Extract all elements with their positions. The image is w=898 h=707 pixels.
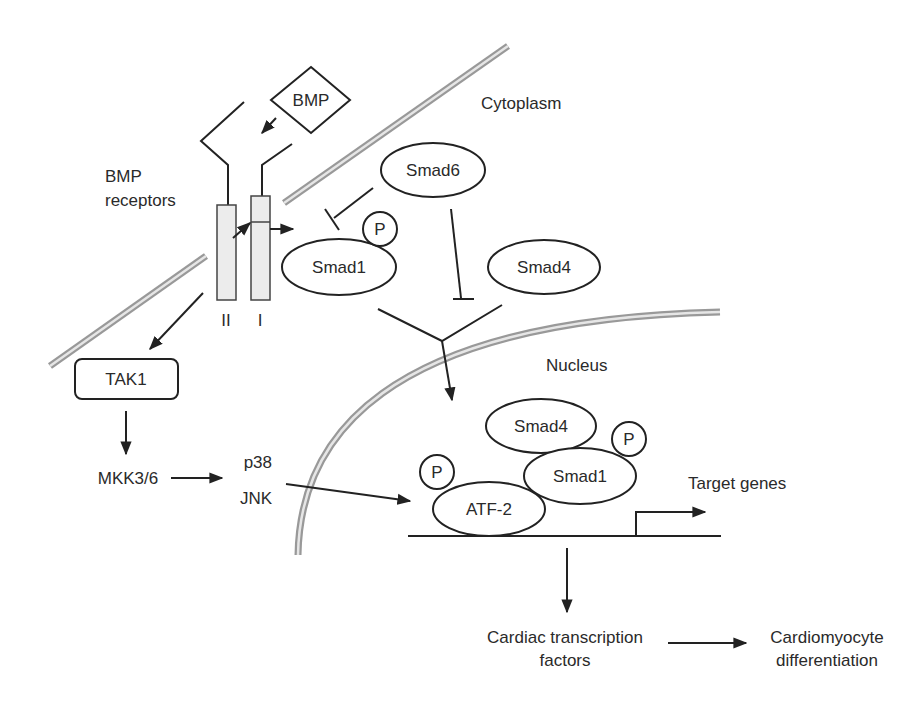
receptor-I-ectodomain <box>262 144 292 196</box>
svg-text:P: P <box>623 430 634 449</box>
mkk-node: MKK3/6 <box>98 469 158 488</box>
pathway-diagram: Cytoplasm Nucleus BMP BMP receptors II I… <box>0 0 898 707</box>
svg-text:Smad1: Smad1 <box>312 258 366 277</box>
nucleus-label: Nucleus <box>546 356 607 375</box>
receptor-type-I <box>251 196 270 300</box>
svg-text:Smad1: Smad1 <box>553 467 607 486</box>
cardiac-tf-line2: factors <box>539 651 590 670</box>
svg-text:ATF-2: ATF-2 <box>466 500 512 519</box>
receptor-to-tak1-arrow <box>150 293 203 349</box>
smad1-nuclear-node: Smad1 <box>524 448 636 504</box>
receptor-I-label: I <box>258 311 263 330</box>
svg-text:P: P <box>431 463 442 482</box>
bmp-ligand: BMP <box>271 67 350 133</box>
receptor-type-II <box>217 205 236 300</box>
bmp-label: BMP <box>293 91 330 110</box>
transcription-start-arrow <box>636 512 705 536</box>
jnk-node: JNK <box>240 489 273 508</box>
receptor-label-line1: BMP <box>105 167 142 186</box>
svg-text:Smad6: Smad6 <box>406 161 460 180</box>
smad-complex-convergence <box>378 305 502 341</box>
phospho-atf2: P <box>420 455 454 489</box>
smad4-cytoplasmic-node: Smad4 <box>488 240 600 294</box>
target-genes-label: Target genes <box>688 474 786 493</box>
smad4-nuclear-node: Smad4 <box>486 399 596 453</box>
receptor-II-ectodomain <box>201 102 244 205</box>
svg-text:P: P <box>374 220 385 239</box>
bmp-binding-arrow <box>262 118 276 133</box>
cytoplasm-label: Cytoplasm <box>481 94 561 113</box>
phospho-smad1-nuclear: P <box>612 422 646 456</box>
cardiomyocyte-line1: Cardiomyocyte <box>770 628 883 647</box>
svg-text:Smad4: Smad4 <box>514 417 568 436</box>
smad-nuclear-import-arrow <box>442 341 452 400</box>
cardiomyocyte-line2: differentiation <box>776 651 878 670</box>
smad6-node: Smad6 <box>381 143 485 197</box>
cardiac-tf-line1: Cardiac transcription <box>487 628 643 647</box>
phospho-smad1-cytoplasmic: P <box>363 212 397 246</box>
p38-node: p38 <box>244 453 272 472</box>
receptor-II-label: II <box>221 311 230 330</box>
tak1-node: TAK1 <box>75 359 178 399</box>
svg-text:Smad4: Smad4 <box>517 258 571 277</box>
smad1-cytoplasmic-node: Smad1 <box>282 239 396 295</box>
smad6-inhibits-complex <box>451 209 461 298</box>
smad6-inhibits-smad1 <box>334 188 373 218</box>
receptor-label-line2: receptors <box>105 191 176 210</box>
svg-text:TAK1: TAK1 <box>105 370 146 389</box>
atf2-node: ATF-2 <box>433 482 545 536</box>
